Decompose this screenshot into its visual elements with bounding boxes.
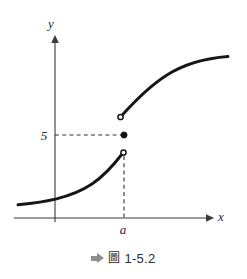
right-branch-open-endpoint (118, 114, 123, 119)
left-branch-curve (18, 154, 123, 205)
figure-container: y x 5 a 圖 1-5.2 (0, 0, 247, 279)
figure-caption-label: 1-5.2 (124, 251, 155, 266)
x-tick-label-a: a (120, 222, 127, 237)
right-arrow-icon (91, 253, 104, 264)
y-axis-arrow-icon (51, 35, 59, 43)
figure-caption: 圖 1-5.2 (0, 247, 247, 269)
x-axis-arrow-icon (206, 214, 214, 222)
guides-group (55, 135, 124, 218)
y-tick-label-5: 5 (41, 128, 48, 143)
figure-glyph-icon: 圖 (108, 252, 120, 264)
points-group (118, 114, 127, 155)
function-value-point-at-a (121, 132, 127, 138)
y-axis-label: y (46, 16, 54, 31)
right-branch-curve (121, 57, 228, 117)
left-branch-open-endpoint (121, 150, 126, 155)
curves-group (18, 57, 228, 205)
x-axis-label: x (217, 209, 224, 224)
labels-group: y x 5 a (41, 16, 224, 237)
plot-area: y x 5 a (0, 0, 247, 279)
